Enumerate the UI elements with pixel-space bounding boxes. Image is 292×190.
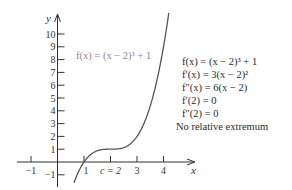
axes: [17, 14, 195, 187]
note-first-derivative-at-2: f′(2) = 0: [176, 95, 292, 108]
y-tick-label: 5: [51, 93, 56, 104]
y-tick-label: 3: [51, 118, 56, 129]
x-tick-label: c = 2: [100, 165, 121, 176]
y-tick-label: 1: [51, 144, 56, 155]
y-tick-label: 9: [51, 41, 56, 52]
y-tick-label: 10: [46, 29, 56, 40]
note-conclusion: No relative extremum: [176, 121, 292, 134]
note-second-derivative-at-2: f″(2) = 0: [176, 108, 292, 121]
x-tick-label: 4: [161, 165, 166, 176]
note-function: f(x) = (x − 2)³ + 1: [176, 56, 292, 69]
y-axis-label: y: [45, 12, 51, 24]
x-axis-label: x: [190, 164, 196, 176]
x-tick-label: 3: [135, 165, 140, 176]
x-tick-label: 1: [84, 165, 89, 176]
note-first-derivative: f′(x) = 3(x − 2)²: [176, 69, 292, 82]
y-tick-label: 7: [51, 67, 56, 78]
y-tick-label: 8: [51, 54, 56, 65]
function-curve: [74, 13, 169, 183]
y-tick-label: 2: [51, 131, 56, 142]
x-tick-label: −1: [26, 165, 37, 176]
note-second-derivative: f″(x) = 6(x − 2): [176, 82, 292, 95]
derivative-notes: f(x) = (x − 2)³ + 1 f′(x) = 3(x − 2)² f″…: [176, 56, 292, 133]
curve-label: f(x) = (x − 2)³ + 1: [76, 50, 151, 62]
y-tick-label: 4: [51, 105, 56, 116]
y-tick-label: 6: [51, 80, 56, 91]
y-tick-label: −1: [45, 169, 56, 180]
